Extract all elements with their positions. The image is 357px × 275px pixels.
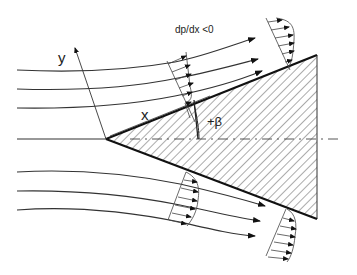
wedge-flow-diagram: dp/dx <0 y x +β — [0, 0, 357, 275]
label-y-axis: y — [58, 49, 66, 66]
velocity-profile-lower-2 — [266, 209, 296, 262]
label-x-axis: x — [141, 106, 149, 123]
label-wedge-angle: +β — [207, 114, 222, 129]
velocity-profile-lower-1 — [168, 172, 199, 226]
y-axis-line — [75, 48, 106, 139]
label-pressure-gradient: dp/dx <0 — [175, 24, 214, 35]
velocity-profile-upper-2 — [266, 18, 294, 70]
wedge-body — [106, 55, 317, 219]
